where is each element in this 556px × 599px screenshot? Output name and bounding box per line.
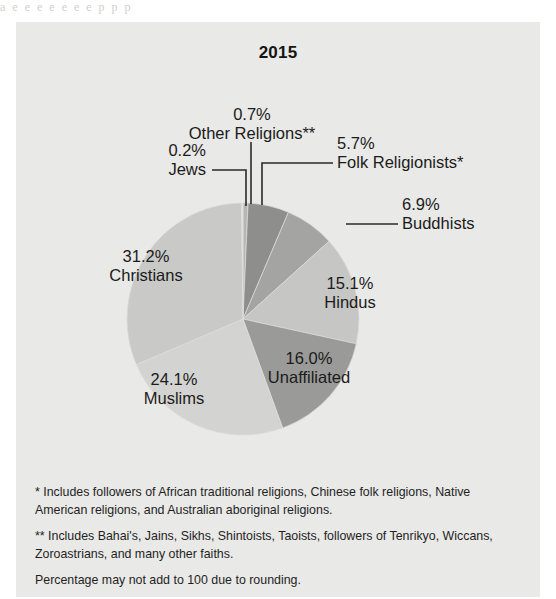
leader-line-folk-religionists — [262, 163, 333, 205]
label-buddhists: 6.9% Buddhists — [402, 195, 532, 233]
label-hindus: 15.1% Hindus — [297, 274, 403, 312]
label-jews-pct: 0.2% — [42, 141, 206, 160]
leader-line-jews — [212, 170, 246, 206]
label-hindus-pct: 15.1% — [297, 274, 403, 293]
label-buddhists-name: Buddhists — [402, 214, 532, 233]
label-christians-pct: 31.2% — [78, 247, 214, 266]
label-other-religions-name: Other Religions** — [159, 124, 345, 143]
label-muslims: 24.1% Muslims — [116, 370, 232, 408]
label-other-religions-pct: 0.7% — [159, 105, 345, 124]
label-folk-religionists-pct: 5.7% — [337, 134, 537, 153]
label-unaffiliated: 16.0% Unaffiliated — [244, 349, 374, 387]
page-bleed-text: a e e e e e e e p p p — [0, 0, 556, 22]
label-other-religions: 0.7% Other Religions** — [159, 105, 345, 143]
label-christians-name: Christians — [78, 266, 214, 285]
label-folk-religionists: 5.7% Folk Religionists* — [337, 134, 537, 172]
pie-chart-figure: 2015 0.7% Other Religions** 0.2% Jews 5.… — [16, 22, 540, 597]
footnote-single-asterisk: * Includes followers of African traditio… — [35, 484, 521, 519]
label-christians: 31.2% Christians — [78, 247, 214, 285]
label-buddhists-pct: 6.9% — [402, 195, 532, 214]
label-unaffiliated-name: Unaffiliated — [244, 368, 374, 387]
footnotes: * Includes followers of African traditio… — [35, 484, 521, 590]
label-muslims-pct: 24.1% — [116, 370, 232, 389]
label-jews-name: Jews — [42, 160, 206, 179]
label-jews: 0.2% Jews — [42, 141, 206, 179]
label-unaffiliated-pct: 16.0% — [244, 349, 374, 368]
label-hindus-name: Hindus — [297, 293, 403, 312]
footnote-double-asterisk: ** Includes Bahai's, Jains, Sikhs, Shint… — [35, 528, 521, 563]
footnote-rounding: Percentage may not add to 100 due to rou… — [35, 572, 521, 590]
label-folk-religionists-name: Folk Religionists* — [337, 153, 537, 172]
label-muslims-name: Muslims — [116, 389, 232, 408]
